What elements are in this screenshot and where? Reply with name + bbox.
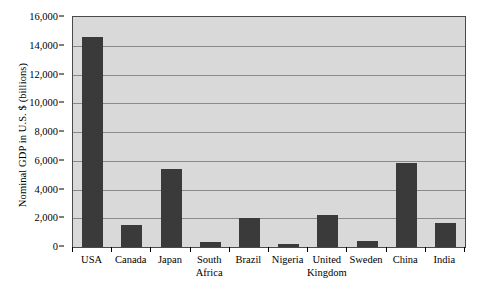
- x-axis-tick-mark: [464, 247, 465, 252]
- y-axis-tick-mark: [59, 16, 64, 17]
- gridline: [73, 103, 465, 104]
- y-axis-tick-mark: [59, 159, 64, 160]
- y-axis-tick-mark: [59, 102, 64, 103]
- bar-chart-figure: Nominal GDP in U.S. $ (billions) 02,0004…: [0, 0, 480, 304]
- bar: [161, 169, 182, 247]
- x-axis-category-label-line: Kingdom: [297, 267, 357, 280]
- y-axis-tick-label: 0: [8, 241, 58, 252]
- x-axis: USACanadaJapanSouthAfricaBrazilNigeriaUn…: [72, 247, 466, 303]
- gridline: [73, 132, 465, 133]
- x-axis-tick-mark: [346, 247, 347, 252]
- plot-area: [72, 16, 466, 248]
- x-axis-tick-mark: [72, 247, 73, 252]
- y-axis-tick-label: 12,000: [8, 68, 58, 79]
- x-axis-tick-mark: [190, 247, 191, 252]
- x-axis-tick-mark: [229, 247, 230, 252]
- y-axis-tick-mark: [59, 131, 64, 132]
- x-axis-tick-mark: [268, 247, 269, 252]
- y-axis-tick-label: 2,000: [8, 212, 58, 223]
- y-axis-tick-label: 10,000: [8, 97, 58, 108]
- x-axis-tick-mark: [307, 247, 308, 252]
- bar: [396, 163, 417, 247]
- x-axis-category-label-line: India: [414, 254, 474, 267]
- y-axis-tick-label: 6,000: [8, 154, 58, 165]
- gridline: [73, 75, 465, 76]
- gridline: [73, 161, 465, 162]
- bar: [239, 218, 260, 247]
- y-axis-tick-label: 14,000: [8, 39, 58, 50]
- gridline: [73, 46, 465, 47]
- y-axis-tick-mark: [59, 73, 64, 74]
- y-axis-tick-mark: [59, 188, 64, 189]
- y-axis-tick-mark: [59, 246, 64, 247]
- x-axis-tick-mark: [150, 247, 151, 252]
- bar: [82, 37, 103, 247]
- y-axis-tick-label: 8,000: [8, 126, 58, 137]
- y-axis-tick-mark: [59, 217, 64, 218]
- y-axis-tick-label: 4,000: [8, 183, 58, 194]
- y-axis-tick-mark: [59, 44, 64, 45]
- y-axis-tick-labels: 02,0004,0006,0008,00010,00012,00014,0001…: [8, 16, 64, 246]
- x-axis-tick-mark: [111, 247, 112, 252]
- bar: [435, 223, 456, 247]
- x-axis-tick-mark: [386, 247, 387, 252]
- bar: [121, 225, 142, 247]
- y-axis-tick-label: 16,000: [8, 11, 58, 22]
- x-axis-category-label-line: Africa: [179, 267, 239, 280]
- x-axis-tick-mark: [425, 247, 426, 252]
- x-axis-category-label: India: [414, 254, 474, 267]
- bar: [317, 215, 338, 247]
